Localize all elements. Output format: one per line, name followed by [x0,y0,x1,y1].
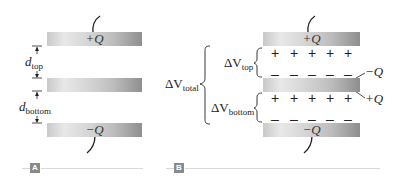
panel-b-wires-and-braces [0,0,402,184]
plate-top: +Q [263,32,360,46]
middle-plate-bottom-charge: +Q [365,91,383,107]
panel-b-tag: B [174,163,184,173]
middle-plate-top-charge: −Q [365,64,383,80]
delta-v-total-label: ΔVtotal [165,76,199,93]
panel-b-rule [185,168,380,169]
delta-v-bottom-label: ΔVbottom [211,100,254,117]
delta-v-top-label: ΔVtop [224,55,253,72]
panel-b-rule-left [166,168,174,169]
